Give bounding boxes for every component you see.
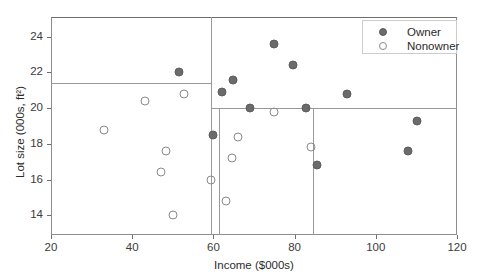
legend-item-owner: Owner bbox=[363, 24, 456, 39]
x-axis-label: Income ($000s) bbox=[214, 259, 294, 271]
data-point-owner bbox=[217, 88, 226, 97]
data-point-owner bbox=[174, 68, 183, 77]
data-point-nonowner bbox=[99, 125, 108, 134]
chart-legend: Owner Nonowner bbox=[362, 20, 457, 54]
y-tick-mark bbox=[47, 215, 51, 216]
legend-owner-marker-icon bbox=[379, 28, 387, 36]
data-point-owner bbox=[412, 116, 421, 125]
y-tick-label: 22 bbox=[21, 67, 43, 79]
data-point-nonowner bbox=[221, 197, 230, 206]
legend-item-nonowner: Nonowner bbox=[363, 38, 456, 53]
data-point-nonowner bbox=[180, 89, 189, 98]
x-tick-label: 40 bbox=[126, 242, 139, 254]
y-tick-mark bbox=[47, 108, 51, 109]
scatter-chart-figure: 20406080100120 141618202224 Income ($000… bbox=[0, 0, 480, 278]
y-tick-label: 14 bbox=[21, 210, 43, 222]
x-tick-label: 80 bbox=[288, 242, 301, 254]
data-point-nonowner bbox=[306, 143, 315, 152]
data-point-owner bbox=[288, 61, 297, 70]
data-point-nonowner bbox=[206, 175, 215, 184]
x-tick-label: 20 bbox=[45, 242, 58, 254]
x-tick-mark bbox=[295, 235, 296, 239]
split-line-vertical bbox=[211, 17, 212, 235]
x-tick-mark bbox=[457, 235, 458, 239]
data-point-owner bbox=[404, 147, 413, 156]
x-tick-mark bbox=[51, 235, 52, 239]
data-point-nonowner bbox=[162, 147, 171, 156]
x-tick-mark bbox=[213, 235, 214, 239]
data-point-owner bbox=[301, 104, 310, 113]
y-axis-label: Lot size (000s, ft²) bbox=[14, 86, 26, 178]
data-point-owner bbox=[209, 130, 218, 139]
y-tick-label: 24 bbox=[21, 31, 43, 43]
data-point-nonowner bbox=[233, 132, 242, 141]
x-tick-mark bbox=[132, 235, 133, 239]
data-point-owner bbox=[228, 75, 237, 84]
y-tick-mark bbox=[47, 72, 51, 73]
data-point-nonowner bbox=[227, 154, 236, 163]
x-tick-label: 60 bbox=[207, 242, 220, 254]
split-line-horizontal bbox=[51, 83, 211, 84]
legend-nonowner-marker-icon bbox=[379, 42, 387, 50]
data-point-nonowner bbox=[270, 107, 279, 116]
y-tick-mark bbox=[47, 37, 51, 38]
x-tick-label: 120 bbox=[447, 242, 466, 254]
data-point-nonowner bbox=[141, 96, 150, 105]
data-point-owner bbox=[245, 104, 254, 113]
x-tick-mark bbox=[376, 235, 377, 239]
x-tick-label: 100 bbox=[366, 242, 385, 254]
data-point-nonowner bbox=[169, 211, 178, 220]
legend-nonowner-label: Nonowner bbox=[407, 40, 459, 52]
y-tick-mark bbox=[47, 144, 51, 145]
y-tick-mark bbox=[47, 180, 51, 181]
legend-owner-label: Owner bbox=[407, 26, 441, 38]
data-point-owner bbox=[312, 161, 321, 170]
split-line-vertical bbox=[219, 108, 220, 235]
data-point-nonowner bbox=[156, 168, 165, 177]
data-point-owner bbox=[270, 39, 279, 48]
data-point-owner bbox=[343, 89, 352, 98]
split-line-vertical bbox=[313, 108, 314, 235]
